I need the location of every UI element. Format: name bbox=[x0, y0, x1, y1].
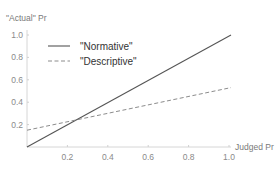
x-tick-label: 1.0 bbox=[223, 152, 235, 162]
y-tick-label: 0.6 bbox=[11, 75, 23, 85]
legend: "Normative" "Descriptive" bbox=[48, 41, 137, 67]
x-tick-label: 0.2 bbox=[61, 152, 73, 162]
x-tick-label: 0.6 bbox=[142, 152, 154, 162]
y-tick-label: 0.8 bbox=[11, 52, 23, 62]
legend-label-descriptive: "Descriptive" bbox=[80, 56, 137, 67]
y-tick-label: 0.2 bbox=[11, 120, 23, 130]
normative-line bbox=[27, 35, 231, 147]
y-tick-label: 1.0 bbox=[11, 30, 23, 40]
y-tick-label: 0.4 bbox=[11, 97, 23, 107]
x-tick-label: 0.8 bbox=[183, 152, 195, 162]
line-chart: 0.2 0.4 0.6 0.8 1.0 0.2 0.4 0.6 0.8 1.0 … bbox=[0, 0, 276, 174]
x-tick-label: 0.4 bbox=[102, 152, 114, 162]
y-axis-label: "Actual" Pr bbox=[6, 13, 47, 23]
legend-label-normative: "Normative" bbox=[80, 41, 133, 52]
descriptive-line bbox=[27, 88, 231, 131]
x-axis-label: Judged Pr bbox=[235, 142, 274, 152]
